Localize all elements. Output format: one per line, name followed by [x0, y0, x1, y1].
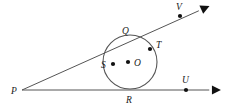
point-label-O: O	[134, 58, 141, 68]
point-dot-V	[178, 14, 182, 18]
point-dot-U	[184, 88, 188, 92]
point-label-P: P	[10, 86, 17, 96]
rays-layer	[22, 5, 221, 94]
point-label-V: V	[176, 2, 183, 12]
point-label-R: R	[125, 95, 132, 105]
point-label-U: U	[182, 75, 190, 85]
tangent-ray-through-Q-and-V	[22, 11, 199, 90]
point-label-S: S	[101, 60, 106, 70]
point-label-Q: Q	[122, 26, 129, 36]
geometry-canvas: PQTSORUV	[0, 0, 229, 108]
point-dot-T	[148, 47, 152, 51]
tangent-ray-through-R-and-U-arrowhead	[212, 85, 221, 94]
point-dot-O	[126, 60, 130, 64]
point-dot-S	[111, 62, 115, 66]
tangent-ray-through-Q-and-V-arrowhead	[199, 5, 209, 13]
point-label-T: T	[156, 40, 162, 50]
geometry-diagram: PQTSORUV	[0, 0, 229, 108]
